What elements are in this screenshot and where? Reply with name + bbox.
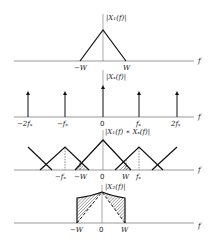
tick-zero: 0: [99, 226, 103, 234]
tick-neg-2fs: −2fₛ: [17, 120, 33, 128]
x-label: f: [197, 113, 202, 121]
triangle-2fs: [152, 147, 177, 170]
tick-fs: fₛ: [135, 120, 142, 128]
x-label: f: [197, 166, 202, 174]
overlap-hatch-right: [118, 163, 131, 170]
x-label: f: [197, 57, 202, 65]
tick-w: W: [122, 173, 130, 181]
tick-neg-fs: −fₛ: [55, 173, 66, 181]
triangle-neg-2fs: [28, 147, 52, 170]
panel-sampling-impulses: |Xₛ(f)| f −2fₛ −fₛ 0 fₛ 2fₛ: [14, 70, 202, 128]
tick-2fs: 2fₛ: [170, 120, 181, 128]
tick-w: W: [121, 226, 129, 234]
tick-zero: 0: [100, 120, 104, 128]
y-label: |X₂(f)|: [105, 183, 126, 191]
y-label: |X₁(f)|: [106, 14, 127, 22]
tick-neg-w: −W: [74, 64, 88, 72]
tick-neg-w: −W: [70, 226, 84, 234]
panel-signal-spectrum: |X₁(f)| f −W W: [14, 14, 202, 72]
x-label: f: [197, 222, 202, 230]
tick-neg-fs: −fₛ: [57, 120, 68, 128]
y-label: |Xₛ(f)|: [106, 73, 126, 81]
tick-zero: 0: [100, 173, 104, 181]
tick-neg-w: −W: [74, 173, 88, 181]
tick-w: W: [123, 64, 131, 72]
panel-convolution-spectrum: |X₁(f) ∗ Xₛ(f)| f −fₛ −W 0 W fₛ: [14, 128, 202, 181]
tick-fs: fₛ: [135, 173, 142, 181]
sampling-aliasing-diagram: |X₁(f)| f −W W |Xₛ(f)| f −2fₛ −fₛ 0 fₛ 2…: [0, 0, 213, 246]
y-label: |X₁(f) ∗ Xₛ(f)|: [105, 128, 150, 136]
panel-aliased-spectrum: |X₂(f)| f −W 0 W: [14, 183, 202, 234]
